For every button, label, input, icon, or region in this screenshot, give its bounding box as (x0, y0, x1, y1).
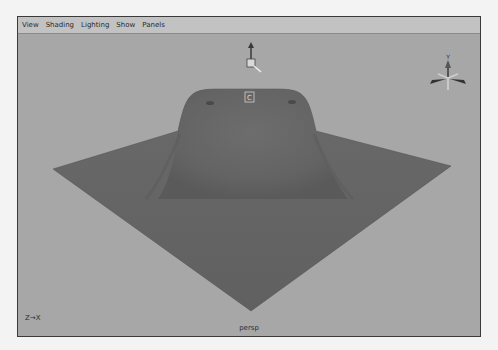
menu-lighting[interactable]: Lighting (80, 21, 110, 29)
axis-indicator: Z→X (25, 314, 40, 322)
viewport-panel: View Shading Lighting Show Panels (17, 16, 481, 337)
view-compass-y-label: Y (445, 53, 450, 60)
camera-name-label: persp (18, 324, 480, 332)
menu-show[interactable]: Show (115, 21, 136, 29)
cluster-handle-label: C (247, 94, 252, 102)
move-manipulator-icon[interactable] (247, 42, 261, 72)
menu-shading[interactable]: Shading (45, 21, 75, 29)
view-compass-icon[interactable]: Y (430, 53, 466, 90)
vertex-marker-right (288, 100, 296, 104)
menu-view[interactable]: View (21, 21, 40, 29)
menu-panels[interactable]: Panels (141, 21, 166, 29)
3d-viewport[interactable]: C Y Z→X persp (18, 34, 480, 336)
viewport-menubar: View Shading Lighting Show Panels (18, 17, 480, 34)
vertex-marker-left (206, 101, 214, 105)
viewport-scene: C Y (18, 34, 480, 336)
